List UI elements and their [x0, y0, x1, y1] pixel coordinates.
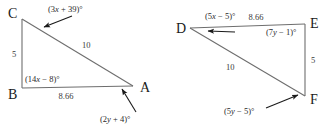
angle-c-suffix: + 39)°	[59, 4, 83, 14]
angle-label-d: (5x − 5)°	[205, 11, 235, 21]
side-label-ca: 10	[82, 40, 91, 50]
angle-leader-f	[266, 95, 298, 108]
side-label-ef: 5	[311, 55, 315, 65]
side-label-ba: 8.66	[59, 91, 74, 101]
angle-leader-d	[208, 31, 235, 32]
angle-label-b: (14x − 8)°	[25, 74, 60, 84]
angle-leader-c	[44, 16, 72, 27]
vertex-label-d: D	[176, 21, 186, 36]
angle-leader-a	[122, 89, 136, 112]
side-label-de: 8.66	[249, 12, 264, 22]
vertex-label-a: A	[140, 80, 151, 95]
angle-b-prefix: (14	[25, 74, 37, 84]
side-label-cb: 5	[12, 49, 16, 59]
triangle-def-side-df	[190, 28, 305, 96]
angle-b-suffix: − 8)°	[40, 74, 60, 84]
triangle-abc: C B A 5 10 8.66 (3x + 39)° (14x − 8)° (2…	[8, 4, 151, 124]
angle-f-suffix: − 5)°	[235, 106, 255, 116]
vertex-label-e: E	[310, 16, 319, 31]
triangle-abc-side-ba	[22, 86, 133, 88]
triangle-def: D E F 8.66 5 10 (5x − 5)° (7y − 1)° (5y …	[176, 11, 319, 116]
vertex-label-f: F	[310, 92, 318, 107]
angle-a-suffix: + 4)°	[111, 114, 131, 124]
geometry-diagram-svg: C B A 5 10 8.66 (3x + 39)° (14x − 8)° (2…	[0, 0, 333, 125]
angle-d-prefix: (5	[205, 11, 212, 21]
angle-label-f: (5y − 5)°	[224, 106, 254, 116]
angle-c-prefix: (3	[48, 4, 55, 14]
angle-f-prefix: (5	[224, 106, 231, 116]
vertex-label-b: B	[8, 87, 17, 102]
angle-label-a: (2y + 4)°	[100, 114, 130, 124]
vertex-label-c: C	[8, 6, 17, 21]
angle-e-suffix: − 1)°	[277, 27, 297, 37]
angle-d-suffix: − 5)°	[216, 11, 236, 21]
angle-label-c: (3x + 39)°	[48, 4, 83, 14]
side-label-df: 10	[226, 62, 235, 72]
geometry-figure-canvas: C B A 5 10 8.66 (3x + 39)° (14x − 8)° (2…	[0, 0, 333, 125]
angle-label-e: (7y − 1)°	[266, 27, 296, 37]
angle-a-prefix: (2	[100, 114, 107, 124]
angle-e-prefix: (7	[266, 27, 273, 37]
